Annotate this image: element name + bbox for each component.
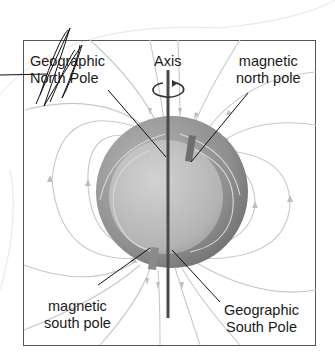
earth-inner-sphere (109, 140, 223, 254)
label-magnetic-north-pole: magnetic north pole (236, 53, 301, 87)
label-geographic-south-pole: Geographic South Pole (224, 302, 299, 336)
label-axis: Axis (154, 53, 181, 70)
label-magnetic-south-pole: magnetic south pole (44, 298, 111, 332)
label-geographic-north-pole: Geographic North Pole (30, 53, 105, 87)
